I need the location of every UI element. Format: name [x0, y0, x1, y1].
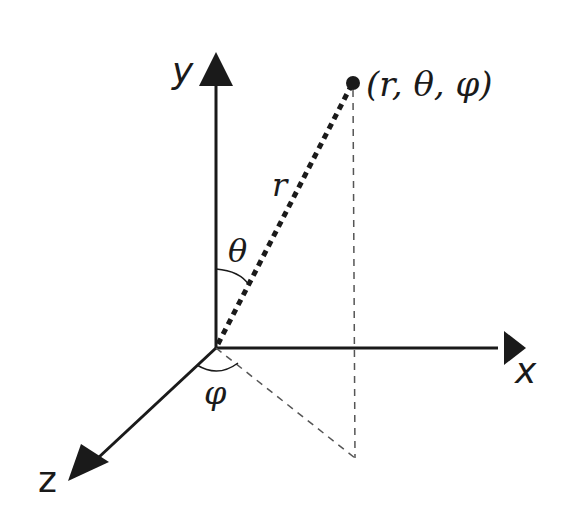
y-axis-label: y: [171, 50, 194, 91]
z-axis: [68, 348, 216, 481]
theta-arc: [216, 269, 249, 285]
z-axis-arrowhead-icon: [68, 444, 109, 481]
radius-label: r: [272, 166, 289, 204]
z-axis-label: z: [38, 459, 57, 500]
y-axis-arrowhead-icon: [199, 52, 233, 86]
point-marker: [346, 76, 360, 90]
phi-label: φ: [204, 374, 227, 412]
point-label: (r, θ, φ): [366, 64, 493, 104]
radius-line: [218, 88, 350, 344]
x-axis-label: x: [514, 350, 537, 391]
x-axis: [216, 331, 526, 365]
spherical-coordinates-diagram: y x z (r, θ, φ) r θ φ: [0, 0, 565, 521]
theta-label: θ: [228, 232, 247, 270]
phi-arc: [197, 363, 238, 371]
y-axis: [199, 52, 233, 348]
